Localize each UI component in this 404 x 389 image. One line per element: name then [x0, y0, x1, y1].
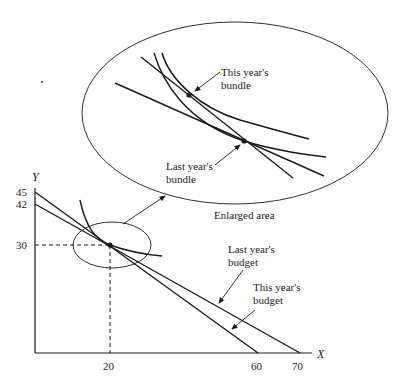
- x-axis-label: X: [316, 347, 325, 361]
- this-years-budget-label-2: budget: [253, 294, 283, 306]
- y-tick-42: 42: [16, 198, 27, 210]
- last-years-bundle-arrow: [215, 145, 240, 165]
- x-tick-70: 70: [292, 360, 304, 372]
- y-tick-30: 30: [16, 239, 28, 251]
- y-axis-label: Y: [32, 170, 40, 184]
- indifference-curve: [80, 200, 162, 256]
- last-years-budget-line-enlarged: [115, 83, 324, 176]
- last-years-budget-arrow: [219, 270, 243, 303]
- big-ellipse: [82, 22, 388, 204]
- stray-dot: [41, 81, 43, 83]
- x-tick-60: 60: [251, 360, 263, 372]
- y-tick-45: 45: [16, 186, 28, 198]
- this-years-bundle-label-1: This year's: [221, 66, 269, 78]
- last-years-bundle-point: [107, 242, 112, 247]
- this-years-budget-line-enlarged: [141, 57, 293, 178]
- this-years-budget-label-1: This year's: [253, 281, 301, 293]
- last-years-bundle-point-enlarged: [241, 138, 246, 143]
- indifference-budget-diagram: Y X 45 42 30 20 60 70: [0, 0, 404, 389]
- this-years-bundle-arrow: [195, 72, 220, 91]
- last-years-bundle-label-2: bundle: [166, 173, 196, 185]
- last-years-budget-label-1: Last year's: [228, 243, 275, 255]
- last-years-budget-label-2: budget: [228, 256, 258, 268]
- enlarged-area: This year's bundle Last year's bundle En…: [82, 22, 388, 221]
- x-tick-20: 20: [103, 360, 115, 372]
- this-years-bundle-point: [186, 92, 191, 97]
- last-years-bundle-label-1: Last year's: [166, 160, 213, 172]
- this-years-bundle-label-2: bundle: [221, 79, 251, 91]
- enlarge-arrow: [123, 196, 165, 224]
- last-years-budget-line: [35, 204, 300, 353]
- enlarged-area-label: Enlarged area: [214, 209, 275, 221]
- budget-labels: Last year's budget This year's budget: [219, 243, 301, 329]
